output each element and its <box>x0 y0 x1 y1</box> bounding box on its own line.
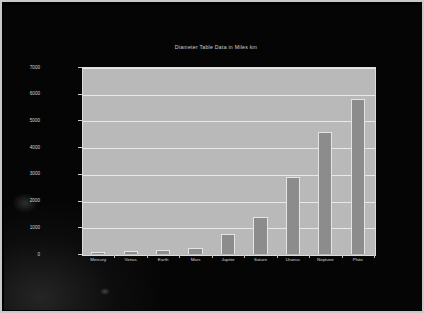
x-axis-tickmark <box>342 255 343 258</box>
x-axis-tickmark <box>212 255 213 258</box>
bar-pluto <box>351 99 365 254</box>
x-axis-tickmark <box>244 255 245 258</box>
x-axis-tick-label: Mars <box>179 257 211 263</box>
bar-venus <box>124 251 138 254</box>
x-axis: MercuryVenusEarthMarsJupiterSaturnUranus… <box>82 257 374 269</box>
x-axis-tick-label: Jupiter <box>212 257 244 263</box>
y-axis-tick-label: 4000 <box>16 145 40 150</box>
y-axis-tick-label: 7000 <box>16 65 40 70</box>
screenshot-root: Diameter Table Data in Miles km 01000200… <box>0 0 424 313</box>
bar-jupiter <box>221 234 235 254</box>
bar-neptune <box>318 132 332 254</box>
x-axis-tickmark <box>179 255 180 258</box>
x-axis-tick-label: Pluto <box>342 257 374 263</box>
y-axis-tick-label: 1000 <box>16 225 40 230</box>
bar-uranus <box>286 177 300 254</box>
x-axis-tick-label: Earth <box>147 257 179 263</box>
y-axis-tick-label: 0 <box>16 252 40 257</box>
bar-earth <box>156 250 170 254</box>
x-axis-tick-label: Venus <box>114 257 146 263</box>
bar-mercury <box>91 252 105 254</box>
y-axis-tick-label: 5000 <box>16 118 40 123</box>
x-axis-tickmark <box>309 255 310 258</box>
x-axis-tickmark <box>277 255 278 258</box>
chart-title: Diameter Table Data in Miles km <box>4 44 422 50</box>
x-axis-tick-label: Neptune <box>309 257 341 263</box>
y-axis-tick-label: 2000 <box>16 198 40 203</box>
bar-series <box>82 67 374 254</box>
bar-saturn <box>253 217 267 254</box>
x-axis-tickmark <box>147 255 148 258</box>
x-axis-tick-label: Mercury <box>82 257 114 263</box>
projected-screen: Diameter Table Data in Miles km 01000200… <box>4 5 422 310</box>
x-axis-tick-label: Saturn <box>244 257 276 263</box>
x-axis-tickmark <box>114 255 115 258</box>
bar-mars <box>188 248 202 254</box>
x-axis-tick-label: Uranus <box>277 257 309 263</box>
screen-glare-dot <box>100 288 110 295</box>
y-axis-tick-label: 3000 <box>16 171 40 176</box>
x-axis-tickmark <box>374 255 375 258</box>
y-axis-tick-label: 6000 <box>16 91 40 96</box>
